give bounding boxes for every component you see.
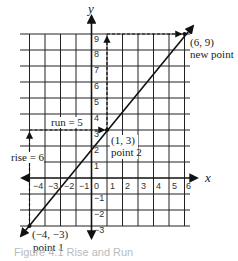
point-2-label: (1, 3) point 2 (110, 134, 142, 159)
svg-text:−1: −1 (79, 181, 89, 191)
svg-text:−2: −2 (94, 209, 104, 219)
svg-text:−3: −3 (48, 181, 58, 191)
svg-text:0: 0 (94, 181, 99, 191)
svg-text:rise = 6: rise = 6 (11, 151, 45, 163)
svg-text:(−4, −3): (−4, −3) (32, 228, 69, 241)
rise-annotation: rise = 6 (10, 151, 45, 163)
svg-text:4: 4 (156, 181, 161, 191)
point-1-marker (28, 224, 32, 228)
figure-caption: Figure 4.1 Rise and Run (14, 246, 133, 258)
x-axis-label: x (204, 170, 211, 185)
svg-text:−3: −3 (94, 225, 104, 235)
point-3-label: (6, 9) new point (190, 34, 238, 60)
svg-text:1: 1 (94, 161, 99, 171)
y-axis-label: y (86, 1, 94, 16)
svg-text:point 2: point 2 (111, 146, 142, 158)
svg-text:run = 5: run = 5 (51, 116, 83, 128)
svg-text:new point: new point (190, 48, 234, 60)
chart-canvas: −4 −3 −2 −1 0 1 2 3 4 5 6 −3 −2 −1 1 2 3… (0, 0, 238, 261)
svg-text:4: 4 (94, 113, 99, 123)
svg-text:2: 2 (94, 145, 99, 155)
y-tick-labels: −3 −2 −1 1 2 3 4 5 6 7 8 9 (94, 34, 104, 235)
svg-text:5: 5 (94, 97, 99, 107)
svg-text:−1: −1 (94, 193, 104, 203)
svg-text:1: 1 (110, 181, 115, 191)
svg-text:3: 3 (94, 129, 99, 139)
svg-text:8: 8 (94, 49, 99, 59)
svg-text:2: 2 (125, 181, 130, 191)
svg-text:5: 5 (172, 181, 177, 191)
svg-text:6: 6 (94, 81, 99, 91)
x-tick-labels: −4 −3 −2 −1 0 1 2 3 4 5 6 (33, 181, 191, 191)
point-3-marker (183, 32, 187, 36)
run-annotation: run = 5 (50, 116, 86, 128)
svg-text:−4: −4 (33, 181, 43, 191)
svg-text:7: 7 (94, 65, 99, 75)
point-2-marker (105, 128, 109, 132)
svg-text:3: 3 (141, 181, 146, 191)
svg-text:6: 6 (186, 181, 191, 191)
svg-text:9: 9 (94, 34, 99, 44)
svg-text:−2: −2 (64, 181, 74, 191)
